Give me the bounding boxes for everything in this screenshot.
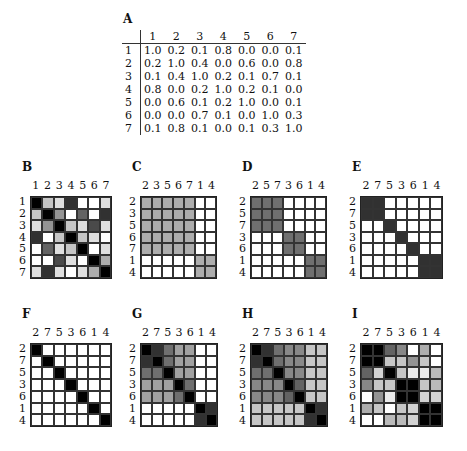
column-label: 5 bbox=[384, 179, 396, 192]
heatmap-cell bbox=[396, 243, 408, 255]
heatmap-cell bbox=[54, 209, 65, 221]
panel-label-b: B bbox=[22, 160, 32, 174]
heatmap-cell bbox=[31, 197, 42, 209]
heatmap-cell bbox=[88, 403, 99, 415]
row-labels: 2753614 bbox=[236, 343, 246, 427]
heatmap-cell bbox=[251, 379, 262, 391]
heatmap-cell bbox=[430, 232, 442, 244]
heatmap-cell bbox=[65, 414, 76, 426]
column-label: 3 bbox=[396, 179, 408, 192]
heatmap-cell bbox=[184, 209, 195, 221]
column-label: 1 bbox=[196, 326, 207, 339]
heatmap-cell bbox=[65, 367, 76, 379]
heatmap-cell bbox=[88, 356, 99, 368]
table-cell: 0.8 bbox=[165, 122, 189, 135]
heatmap-cell bbox=[206, 391, 217, 403]
table-cell: 0.1 bbox=[235, 70, 259, 83]
heatmap-cell bbox=[361, 403, 373, 415]
heatmap-cell bbox=[305, 197, 316, 209]
heatmap-cell bbox=[184, 414, 195, 426]
table-cell: 0.0 bbox=[235, 109, 259, 122]
heatmap-cell bbox=[195, 367, 206, 379]
heatmap-cell bbox=[163, 403, 174, 415]
heatmap-cell bbox=[430, 255, 442, 267]
heatmap-cell bbox=[100, 391, 111, 403]
heatmap-cell bbox=[251, 344, 262, 356]
row-label: 2 bbox=[16, 208, 26, 220]
column-labels: 2753614 bbox=[360, 179, 443, 192]
heatmap-cell bbox=[373, 232, 385, 244]
heatmap-cell bbox=[373, 255, 385, 267]
heatmap-cell bbox=[195, 209, 206, 221]
heatmap-cell bbox=[283, 220, 294, 232]
row-labels: 2753614 bbox=[346, 343, 356, 427]
heatmap-cell bbox=[77, 197, 88, 209]
heatmap-cell bbox=[206, 414, 217, 426]
heatmap-cell bbox=[31, 356, 42, 368]
panel-label-c: C bbox=[132, 160, 142, 174]
heatmap-cell bbox=[384, 414, 396, 426]
heatmap-cell bbox=[384, 266, 396, 278]
heatmap-cell bbox=[31, 243, 42, 255]
heatmap-cell bbox=[251, 255, 262, 267]
heatmap-cell bbox=[419, 356, 431, 368]
row-label: 3 bbox=[126, 208, 136, 220]
heatmap-cell bbox=[294, 367, 305, 379]
heatmap-cell bbox=[206, 367, 217, 379]
heatmap-cell bbox=[77, 266, 88, 278]
heatmap-cell bbox=[396, 414, 408, 426]
heatmap-cell bbox=[407, 356, 419, 368]
panel-label-d: D bbox=[242, 160, 252, 174]
heatmap-cell bbox=[407, 414, 419, 426]
heatmap-cell bbox=[407, 266, 419, 278]
heatmap-cell bbox=[206, 379, 217, 391]
column-label: 3 bbox=[283, 326, 294, 339]
heatmap-cell bbox=[173, 255, 184, 267]
heatmap-cell bbox=[206, 403, 217, 415]
column-label: 5 bbox=[272, 326, 283, 339]
table-cell: 0.0 bbox=[259, 57, 283, 70]
heatmap-cell bbox=[100, 367, 111, 379]
heatmap-cell bbox=[373, 220, 385, 232]
table-cell: 0.2 bbox=[141, 57, 165, 70]
table-cell: 0.1 bbox=[259, 83, 283, 96]
heatmap-cell bbox=[315, 209, 326, 221]
table-cell: 0.0 bbox=[259, 96, 283, 109]
heatmap-cell bbox=[430, 209, 442, 221]
heatmap-cell bbox=[407, 220, 419, 232]
heatmap-cell bbox=[407, 232, 419, 244]
heatmap-cell bbox=[141, 232, 152, 244]
heatmap-cell bbox=[407, 255, 419, 267]
column-header: 7 bbox=[282, 30, 306, 44]
heatmap-cell bbox=[305, 367, 316, 379]
heatmap-cell bbox=[42, 356, 53, 368]
column-label: 7 bbox=[100, 179, 112, 192]
column-label: 2 bbox=[30, 326, 42, 339]
heatmap-cell bbox=[141, 197, 152, 209]
heatmap-cell bbox=[419, 344, 431, 356]
heatmap-cell bbox=[251, 243, 262, 255]
column-header: 1 bbox=[141, 30, 165, 44]
heatmap-cell bbox=[396, 255, 408, 267]
heatmap-cell bbox=[65, 403, 76, 415]
column-label: 4 bbox=[431, 326, 443, 339]
heatmap-cell bbox=[396, 367, 408, 379]
heatmap-cell bbox=[273, 379, 284, 391]
column-header: 4 bbox=[212, 30, 236, 44]
heatmap-cell bbox=[430, 414, 442, 426]
heatmap-cell bbox=[316, 356, 327, 368]
heatmap-cell bbox=[77, 356, 88, 368]
heatmap-cell bbox=[262, 379, 273, 391]
heatmap-cell bbox=[273, 344, 284, 356]
heatmap-grid bbox=[140, 343, 218, 427]
table-row: 20.21.00.40.00.60.00.8 bbox=[122, 57, 306, 70]
row-labels: 2753614 bbox=[16, 343, 26, 427]
heatmap-cell bbox=[195, 379, 206, 391]
heatmap-cell bbox=[77, 344, 88, 356]
heatmap-cell bbox=[361, 367, 373, 379]
heatmap-cell bbox=[284, 379, 295, 391]
heatmap-cell bbox=[283, 255, 294, 267]
heatmap-cell bbox=[65, 209, 76, 221]
heatmap-cell bbox=[316, 403, 327, 415]
heatmap-cell bbox=[77, 367, 88, 379]
